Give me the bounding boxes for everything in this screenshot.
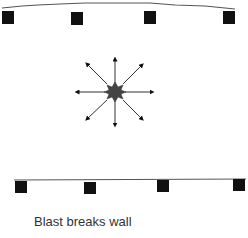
arrow-up-left-icon xyxy=(87,64,107,84)
arrow-up-right-icon xyxy=(123,65,142,84)
bottom-wall-post-3 xyxy=(157,180,169,192)
bottom-wall-post-2 xyxy=(84,182,96,194)
blast xyxy=(77,59,152,125)
bottom-wall-line xyxy=(14,179,246,180)
top-wall-post-3 xyxy=(144,11,156,24)
bottom-wall-post-4 xyxy=(233,179,245,191)
top-wall-post-2 xyxy=(71,12,83,25)
blast-diagram xyxy=(0,0,248,238)
bottom-wall xyxy=(14,179,246,194)
top-wall-post-1 xyxy=(2,11,14,24)
bottom-wall-post-1 xyxy=(15,181,27,193)
caption: Blast breaks wall xyxy=(34,214,132,229)
top-wall-post-4 xyxy=(223,11,235,24)
explosion-icon xyxy=(104,82,126,102)
top-wall xyxy=(2,3,235,25)
arrow-down-left-icon xyxy=(87,100,107,119)
top-wall-line xyxy=(2,3,235,9)
arrow-down-right-icon xyxy=(123,100,142,119)
